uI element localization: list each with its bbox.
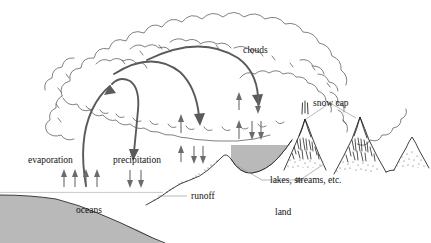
evaporation-arrows bbox=[61, 169, 100, 187]
peak-flourish bbox=[302, 101, 308, 114]
diagram-canvas: clouds snow cap evaporation precipitatio… bbox=[0, 0, 431, 243]
cloud-mass bbox=[45, 13, 407, 146]
right-mid-arrow-cluster bbox=[236, 120, 264, 140]
label-lakes-streams: lakes, streams, etc. bbox=[270, 175, 342, 185]
mountain-left bbox=[284, 101, 326, 170]
ocean bbox=[0, 192, 165, 243]
lake bbox=[231, 140, 292, 173]
label-snow-cap: snow cap bbox=[313, 98, 349, 108]
label-runoff: runoff bbox=[191, 191, 215, 201]
label-land: land bbox=[275, 207, 292, 217]
evaporation-rising-arrow bbox=[83, 85, 116, 186]
cloud-transport-arrow-left bbox=[114, 61, 205, 126]
label-clouds: clouds bbox=[243, 45, 268, 55]
mid-upper-arrow-cluster bbox=[178, 114, 184, 133]
water-cycle-diagram: clouds snow cap evaporation precipitatio… bbox=[0, 0, 431, 243]
cloud-transport-arrow-right bbox=[147, 46, 263, 107]
label-evaporation: evaporation bbox=[28, 155, 73, 165]
mountain-right bbox=[334, 117, 386, 174]
precipitation-arrows bbox=[127, 170, 144, 188]
mountain-far-right bbox=[394, 137, 429, 170]
label-precipitation: precipitation bbox=[113, 155, 161, 165]
label-oceans: oceans bbox=[76, 205, 102, 215]
mid-lower-arrow-cluster bbox=[178, 145, 206, 164]
